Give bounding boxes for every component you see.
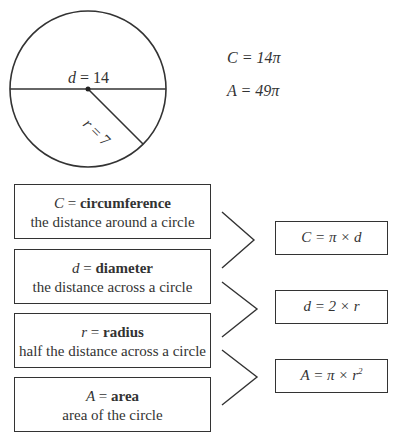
diameter-eq: = [76, 69, 93, 86]
center-point [86, 87, 91, 92]
formula-text: d = 2 × r [303, 298, 359, 314]
chevron-1 [222, 212, 254, 268]
chevron-3 [222, 350, 257, 405]
def-term: radius [103, 324, 144, 340]
diameter-label: d = 14 [68, 69, 109, 87]
def-eq: = [80, 260, 96, 276]
diameter-value: 14 [93, 69, 109, 86]
def-eq: = [87, 324, 103, 340]
definition-box-area: A = area area of the circle [14, 377, 211, 432]
formula-box-diameter: d = 2 × r [275, 290, 388, 324]
def-term: area [111, 388, 139, 404]
definition-box-diameter: d = diameter the distance across a circl… [14, 249, 211, 304]
formula-box-circumference: C = π × d [275, 221, 388, 255]
area-result: A = 49π [227, 82, 279, 100]
formula-exponent: 2 [358, 366, 363, 376]
def-desc: area of the circle [15, 405, 210, 425]
definition-box-radius: r = radius half the distance across a ci… [14, 313, 211, 368]
circumference-result: C = 14π [227, 49, 280, 67]
def-eq: = [64, 195, 80, 211]
formula-text: C = π × d [301, 229, 361, 245]
def-desc: half the distance across a circle [15, 341, 210, 361]
def-var: d [72, 260, 80, 276]
formula-box-area: A = π × r2 [275, 359, 388, 393]
def-desc: the distance around a circle [15, 212, 210, 232]
def-term: circumference [80, 195, 171, 211]
def-term: diameter [95, 260, 152, 276]
def-desc: the distance across a circle [15, 277, 210, 297]
chevron-2 [222, 282, 257, 337]
formula-text: A = π × r [301, 367, 359, 383]
def-eq: = [95, 388, 111, 404]
diameter-var: d [68, 69, 76, 86]
definition-box-circumference: C = circumference the distance around a … [14, 184, 211, 239]
def-var: A [86, 388, 95, 404]
def-var: C [54, 195, 64, 211]
